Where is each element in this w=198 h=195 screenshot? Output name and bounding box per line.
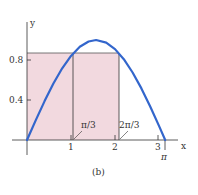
x-tick-label-3: 3 [155,142,161,152]
2pi3-label: 2π/3 [119,120,140,130]
y-tick-label-08: 0.8 [9,55,24,65]
x-tick-label-1: 1 [68,142,74,152]
y-axis-label: y [29,18,36,28]
shaded-rect-2 [73,53,119,140]
figure-caption: (b) [92,167,105,177]
pi3-label: π/3 [81,120,96,130]
pi-label: π [160,152,168,162]
y-tick-label-04: 0.4 [9,95,24,105]
2pi3-leader [120,131,128,139]
chart: y x 0.8 0.4 1 2 3 π π/3 2π/3 (b) [0,0,198,195]
x-tick-label-2: 2 [112,142,118,152]
x-axis-label: x [181,141,186,151]
